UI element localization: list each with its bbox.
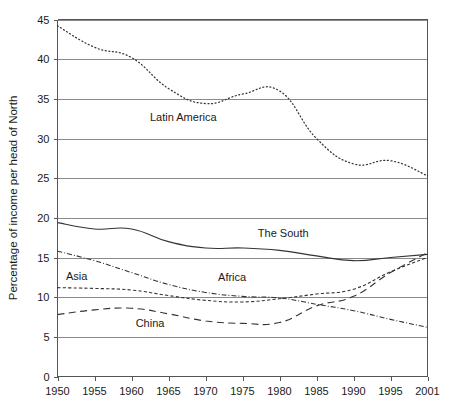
y-axis-ticks bbox=[54, 21, 58, 378]
x-tick-label-1955: 1955 bbox=[82, 385, 106, 397]
x-tick-label-2001: 2001 bbox=[415, 385, 439, 397]
x-tick-label-1995: 1995 bbox=[378, 385, 402, 397]
y-tick-label-10: 10 bbox=[37, 291, 49, 303]
y-axis-tick-labels: 051015202530354045 bbox=[37, 14, 49, 383]
series-label-china: China bbox=[136, 317, 166, 329]
x-axis-ticks bbox=[59, 377, 429, 381]
x-tick-label-1950: 1950 bbox=[45, 385, 69, 397]
y-axis-title: Percentage of income per head of North bbox=[7, 96, 19, 301]
y-tick-label-45: 45 bbox=[37, 14, 49, 26]
y-axis-title-text: Percentage of income per head of North bbox=[7, 96, 19, 301]
y-tick-label-30: 30 bbox=[37, 133, 49, 145]
series-line-latin-america bbox=[58, 26, 428, 176]
x-tick-label-1960: 1960 bbox=[119, 385, 143, 397]
x-tick-label-1965: 1965 bbox=[156, 385, 180, 397]
y-tick-label-0: 0 bbox=[43, 371, 49, 383]
x-tick-label-1975: 1975 bbox=[230, 385, 254, 397]
gridlines bbox=[58, 21, 428, 338]
series-label-latin-america: Latin America bbox=[150, 111, 218, 123]
series-inline-labels: Latin AmericaThe SouthAfricaAsiaChina bbox=[66, 111, 309, 328]
line-chart: 051015202530354045 195019551960196519701… bbox=[0, 0, 449, 414]
chart-container: 051015202530354045 195019551960196519701… bbox=[0, 0, 449, 414]
x-axis-tick-labels: 1950195519601965197019751980198519901995… bbox=[45, 385, 439, 397]
series-label-asia: Asia bbox=[66, 270, 88, 282]
y-tick-label-25: 25 bbox=[37, 172, 49, 184]
x-tick-label-1980: 1980 bbox=[267, 385, 291, 397]
x-tick-label-1970: 1970 bbox=[193, 385, 217, 397]
y-tick-label-20: 20 bbox=[37, 212, 49, 224]
series-label-the-south: The South bbox=[258, 227, 309, 239]
series-line-the-south bbox=[58, 223, 428, 261]
y-tick-label-35: 35 bbox=[37, 93, 49, 105]
y-tick-label-15: 15 bbox=[37, 252, 49, 264]
series-label-africa: Africa bbox=[218, 271, 247, 283]
y-tick-label-5: 5 bbox=[43, 331, 49, 343]
x-tick-label-1985: 1985 bbox=[304, 385, 328, 397]
y-tick-label-40: 40 bbox=[37, 53, 49, 65]
x-tick-label-1990: 1990 bbox=[341, 385, 365, 397]
